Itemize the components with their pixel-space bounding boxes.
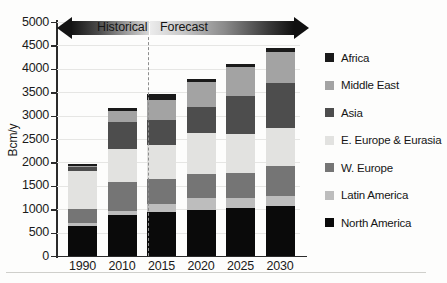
bar-segment [108,215,137,256]
bar-segment [108,149,137,182]
y-axis-tick-label: 3000 [1,109,49,122]
forecast-arrow-label: Forecast [160,20,208,34]
legend-item: Africa [325,44,445,72]
bar-2030 [266,48,295,256]
caption-divider [6,272,426,273]
legend-item: Asia [325,99,445,127]
bar-segment [108,122,137,150]
legend-swatch-icon [325,218,334,227]
y-axis-tick-label: 3500 [1,86,49,99]
y-axis-tick-label: 1500 [1,179,49,192]
bar-segment [266,196,295,206]
historical-arrow: Historical [57,17,149,39]
y-axis-tick-mark [51,209,57,210]
y-axis-tick-label: 2500 [1,133,49,146]
y-axis-tick-label: 500 [1,226,49,239]
bar-segment [68,226,97,256]
x-axis-tick-label: 2030 [258,259,302,273]
y-axis-tick-label: 2000 [1,156,49,169]
bar-segment [187,210,216,256]
y-axis-tick-label: 0 [1,250,49,263]
gridline [57,116,300,117]
arrow-left-head-icon [57,17,72,39]
bar-segment [187,133,216,173]
bar-2015 [147,94,176,256]
bar-segment [187,174,216,199]
bar-segment [108,111,137,121]
arrow-right-head-icon [294,17,309,39]
y-axis-tick-mark [51,116,57,117]
bar-segment [147,120,176,144]
bar-segment [226,208,255,256]
bar-segment [147,100,176,121]
legend-label: Africa [341,52,369,64]
legend-label: Middle East [341,79,399,91]
y-axis-tick-mark [51,186,57,187]
gridline [57,139,300,140]
y-axis-tick-mark [51,162,57,163]
legend-item: North America [325,209,445,237]
y-axis-tick-mark [51,139,57,140]
x-axis-tick-label: 2015 [140,259,184,273]
y-axis-tick-mark [51,45,57,46]
bar-segment [187,107,216,134]
legend-label: E. Europe & Eurasia [341,134,441,146]
legend-item: Latin America [325,182,445,210]
bar-segment [147,145,176,179]
legend-item: W. Europe [325,154,445,182]
bar-segment [266,52,295,82]
x-axis-tick-label: 1990 [61,259,105,273]
bar-1990 [68,164,97,256]
bar-segment [226,67,255,95]
x-axis-tick-label: 2010 [100,259,144,273]
legend-label: Asia [341,107,363,119]
chart-figure: Bcm/y 0500100015002000250030003500400045… [0,0,447,283]
bar-segment [226,173,255,198]
bar-segment [266,83,295,128]
y-axis-tick-label: 4500 [1,39,49,52]
y-axis-tick-label: 1000 [1,203,49,216]
forecast-arrow: Forecast [150,17,309,39]
legend-item: Middle East [325,72,445,100]
legend-item: E. Europe & Eurasia [325,127,445,155]
bar-segment [68,171,97,208]
bar-segment [147,179,176,204]
x-axis-tick-label: 2025 [219,259,263,273]
y-axis-tick-mark [51,92,57,93]
y-axis-tick-labels: 0500100015002000250030003500400045005000 [0,0,49,283]
historical-arrow-label: Historical [97,20,147,34]
bar-segment [187,82,216,106]
bar-segment [147,212,176,256]
bar-segment [266,128,295,166]
period-arrows: Historical Forecast [57,17,309,39]
legend-label: W. Europe [341,162,393,174]
legend-swatch-icon [325,81,334,90]
plot-area [57,22,300,256]
y-axis-tick-mark [51,69,57,70]
legend-label: North America [341,217,411,229]
legend-label: Latin America [341,189,408,201]
historical-forecast-divider [148,22,149,256]
bar-2025 [226,64,255,256]
legend-swatch-icon [325,163,334,172]
legend-swatch-icon [325,108,334,117]
legend-swatch-icon [325,136,334,145]
bar-segment [266,206,295,256]
gridline [57,45,300,46]
bar-segment [108,182,137,211]
bar-segment [226,198,255,207]
legend-swatch-icon [325,53,334,62]
bar-segment [266,166,295,196]
legend: AfricaMiddle EastAsiaE. Europe & Eurasia… [325,44,445,237]
y-axis-tick-label: 4000 [1,62,49,75]
bar-segment [226,96,255,134]
gridline [57,162,300,163]
bar-2020 [187,79,216,256]
y-axis-tick-label: 5000 [1,16,49,29]
bar-segment [226,134,255,173]
bar-segment [147,204,176,212]
gridline [57,92,300,93]
x-axis-tick-label: 2020 [179,259,223,273]
bar-segment [187,198,216,209]
bar-2010 [108,108,137,256]
